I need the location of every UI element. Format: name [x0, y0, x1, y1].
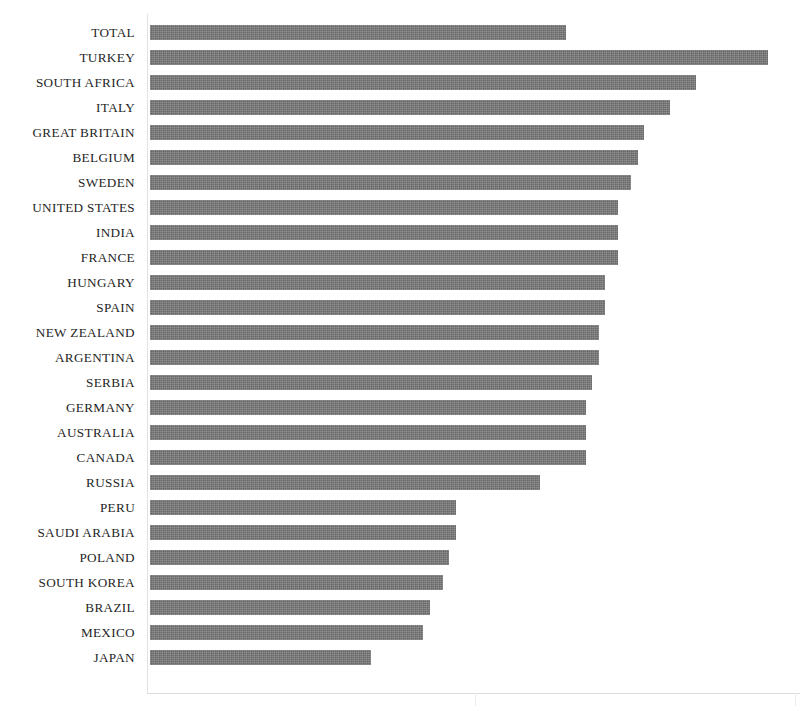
bar-fill	[150, 50, 768, 65]
bar-category-label: BRAZIL	[0, 600, 135, 615]
bar-row: SPAIN	[0, 300, 803, 325]
bar-category-label: PERU	[0, 500, 135, 515]
axis-tick-mark	[475, 693, 476, 706]
bar-category-label: SAUDI ARABIA	[0, 525, 135, 540]
bar-category-label: MEXICO	[0, 625, 135, 640]
bar-row: MEXICO	[0, 625, 803, 650]
bar-row: JAPAN	[0, 650, 803, 675]
bar-fill	[150, 225, 618, 240]
bar-track	[150, 175, 631, 190]
bar-category-label: UNITED STATES	[0, 200, 135, 215]
bar-track	[150, 100, 670, 115]
bar-fill	[150, 475, 540, 490]
bar-fill	[150, 150, 638, 165]
bar-fill	[150, 25, 566, 40]
bar-fill	[150, 300, 605, 315]
bar-row: GERMANY	[0, 400, 803, 425]
bar-track	[150, 125, 644, 140]
bar-track	[150, 250, 618, 265]
bar-track	[150, 575, 443, 590]
bar-fill	[150, 100, 670, 115]
bar-track	[150, 225, 618, 240]
bar-category-label: SPAIN	[0, 300, 135, 315]
bar-fill	[150, 175, 631, 190]
bar-row: POLAND	[0, 550, 803, 575]
bar-category-label: BELGIUM	[0, 150, 135, 165]
bar-chart-figure: TOTALTURKEYSOUTH AFRICAITALYGREAT BRITAI…	[0, 0, 803, 711]
bar-track	[150, 475, 540, 490]
value-axis-line	[147, 693, 800, 694]
bar-category-label: CANADA	[0, 450, 135, 465]
bar-fill	[150, 75, 696, 90]
bar-row: INDIA	[0, 225, 803, 250]
bar-category-label: JAPAN	[0, 650, 135, 665]
bar-row: GREAT BRITAIN	[0, 125, 803, 150]
bar-fill	[150, 650, 371, 665]
bar-track	[150, 25, 566, 40]
bar-track	[150, 275, 605, 290]
bar-row: SOUTH AFRICA	[0, 75, 803, 100]
bar-row: BELGIUM	[0, 150, 803, 175]
bar-fill	[150, 375, 592, 390]
bar-track	[150, 350, 599, 365]
bar-row: HUNGARY	[0, 275, 803, 300]
bar-row: FRANCE	[0, 250, 803, 275]
bar-fill	[150, 400, 586, 415]
bar-track	[150, 375, 592, 390]
bar-fill	[150, 500, 456, 515]
bar-fill	[150, 125, 644, 140]
bar-category-label: TOTAL	[0, 25, 135, 40]
bar-track	[150, 325, 599, 340]
bar-category-label: SERBIA	[0, 375, 135, 390]
bar-fill	[150, 550, 449, 565]
bar-category-label: SOUTH AFRICA	[0, 75, 135, 90]
bar-category-label: POLAND	[0, 550, 135, 565]
bar-track	[150, 625, 423, 640]
bar-fill	[150, 275, 605, 290]
bar-track	[150, 75, 696, 90]
bar-fill	[150, 625, 423, 640]
bar-track	[150, 425, 586, 440]
bar-row: PERU	[0, 500, 803, 525]
bar-category-label: SWEDEN	[0, 175, 135, 190]
bar-category-label: INDIA	[0, 225, 135, 240]
bar-track	[150, 300, 605, 315]
bar-row: TURKEY	[0, 50, 803, 75]
bar-category-label: GREAT BRITAIN	[0, 125, 135, 140]
bar-category-label: HUNGARY	[0, 275, 135, 290]
bar-row: AUSTRALIA	[0, 425, 803, 450]
bar-row: NEW ZEALAND	[0, 325, 803, 350]
bar-category-label: AUSTRALIA	[0, 425, 135, 440]
bar-row: SAUDI ARABIA	[0, 525, 803, 550]
bar-fill	[150, 450, 586, 465]
axis-tick-mark	[795, 693, 796, 706]
bar-fill	[150, 425, 586, 440]
bar-fill	[150, 525, 456, 540]
bar-row: SERBIA	[0, 375, 803, 400]
bar-track	[150, 50, 768, 65]
bar-category-label: TURKEY	[0, 50, 135, 65]
bar-category-label: RUSSIA	[0, 475, 135, 490]
bar-fill	[150, 575, 443, 590]
bar-category-label: SOUTH KOREA	[0, 575, 135, 590]
bar-row: TOTAL	[0, 25, 803, 50]
bar-track	[150, 400, 586, 415]
bar-fill	[150, 200, 618, 215]
bar-track	[150, 650, 371, 665]
bar-category-label: GERMANY	[0, 400, 135, 415]
bar-track	[150, 150, 638, 165]
bar-row: ITALY	[0, 100, 803, 125]
bar-row: ARGENTINA	[0, 350, 803, 375]
plot-area: TOTALTURKEYSOUTH AFRICAITALYGREAT BRITAI…	[0, 0, 803, 711]
bar-row: BRAZIL	[0, 600, 803, 625]
bar-fill	[150, 250, 618, 265]
bar-track	[150, 550, 449, 565]
bar-category-label: ARGENTINA	[0, 350, 135, 365]
bar-row: UNITED STATES	[0, 200, 803, 225]
bar-row: RUSSIA	[0, 475, 803, 500]
bar-fill	[150, 325, 599, 340]
bar-row: CANADA	[0, 450, 803, 475]
bar-fill	[150, 350, 599, 365]
bar-row: SOUTH KOREA	[0, 575, 803, 600]
bar-category-label: FRANCE	[0, 250, 135, 265]
